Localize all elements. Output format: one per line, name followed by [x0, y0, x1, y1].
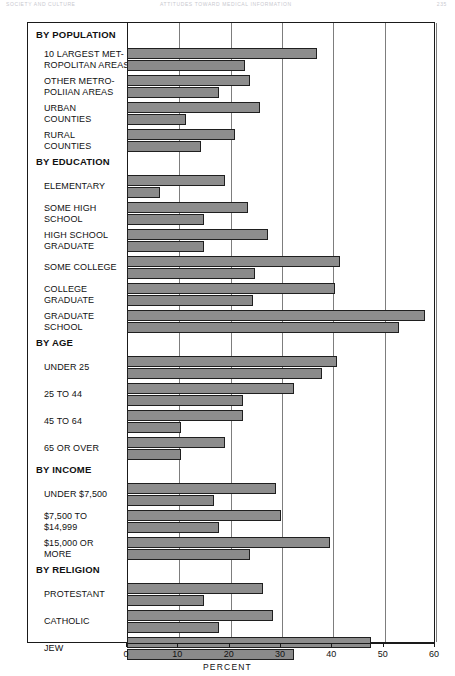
- bar: [127, 322, 399, 333]
- category-label: RURAL COUNTIES: [44, 130, 91, 151]
- chart-frame: BY POPULATION10 LARGEST MET- ROPOLITAN A…: [27, 22, 435, 643]
- bar: [127, 60, 245, 71]
- category-label: PROTESTANT: [44, 589, 105, 600]
- category-label: COLLEGE GRADUATE: [44, 284, 94, 305]
- x-tick-label-40: 40: [316, 649, 346, 659]
- bar: [127, 141, 201, 152]
- x-tick-label-50: 50: [368, 649, 398, 659]
- bar: [127, 356, 337, 367]
- x-tick-30: [280, 643, 281, 647]
- bar: [127, 310, 425, 321]
- bar: [127, 102, 260, 113]
- section-heading-by-population: BY POPULATION: [36, 29, 116, 40]
- bar: [127, 495, 214, 506]
- bar: [127, 48, 317, 59]
- category-label: 45 TO 64: [44, 416, 82, 427]
- category-label: 65 OR OVER: [44, 443, 99, 454]
- category-label: ELEMENTARY: [44, 181, 105, 192]
- category-label: JEW: [44, 643, 63, 654]
- bar: [127, 187, 160, 198]
- bar: [127, 595, 204, 606]
- bar: [127, 410, 243, 421]
- bar: [127, 87, 219, 98]
- x-tick-10: [177, 643, 178, 647]
- bar: [127, 114, 186, 125]
- bar: [127, 383, 294, 394]
- x-tick-50: [383, 643, 384, 647]
- section-heading-by-age: BY AGE: [36, 337, 73, 348]
- bar: [127, 268, 255, 279]
- x-tick-label-0: 0: [111, 649, 141, 659]
- bar: [127, 202, 248, 213]
- bar: [127, 229, 268, 240]
- running-head-center: ATTITUDES TOWARD MEDICAL INFORMATION: [160, 1, 292, 7]
- x-tick-40: [331, 643, 332, 647]
- bar: [127, 583, 263, 594]
- x-axis-title: PERCENT: [0, 662, 455, 672]
- section-heading-by-income: BY INCOME: [36, 464, 91, 475]
- bar: [127, 241, 204, 252]
- x-tick-label-10: 10: [162, 649, 192, 659]
- category-label: UNDER $7,500: [44, 489, 107, 500]
- category-label: HIGH SCHOOL GRADUATE: [44, 230, 108, 251]
- bar: [127, 510, 281, 521]
- category-label: URBAN COUNTIES: [44, 103, 91, 124]
- bar: [127, 175, 225, 186]
- bar: [127, 549, 250, 560]
- x-tick-label-30: 30: [265, 649, 295, 659]
- category-label: 10 LARGEST MET- ROPOLITAN AREAS: [44, 49, 129, 70]
- category-label: $7,500 TO $14,999: [44, 511, 87, 532]
- category-label: GRADUATE SCHOOL: [44, 311, 94, 332]
- bar: [127, 610, 273, 621]
- bar: [127, 522, 219, 533]
- bar: [127, 368, 322, 379]
- category-label: $15,000 OR MORE: [44, 538, 94, 559]
- bar: [127, 437, 225, 448]
- bar: [127, 449, 181, 460]
- bar: [127, 622, 219, 633]
- bar: [127, 129, 235, 140]
- category-label: UNDER 25: [44, 362, 89, 373]
- section-heading-by-education: BY EDUCATION: [36, 156, 110, 167]
- category-label: 25 TO 44: [44, 389, 82, 400]
- section-heading-by-religion: BY RELIGION: [36, 564, 100, 575]
- bar: [127, 483, 276, 494]
- bar: [127, 537, 330, 548]
- bar: [127, 75, 250, 86]
- bar: [127, 214, 204, 225]
- running-head: SOCIETY AND CULTURE ATTITUDES TOWARD MED…: [0, 0, 455, 9]
- category-label: OTHER METRO- POLIIAN AREAS: [44, 76, 115, 97]
- bar: [127, 422, 181, 433]
- gridline-60: [436, 23, 437, 642]
- bar: [127, 295, 253, 306]
- x-tick-0: [126, 643, 127, 647]
- x-tick-20: [229, 643, 230, 647]
- bar: [127, 256, 340, 267]
- running-head-right: 235: [437, 1, 447, 7]
- bar: [127, 395, 243, 406]
- x-tick-label-60: 60: [419, 649, 449, 659]
- x-tick-label-20: 20: [214, 649, 244, 659]
- running-head-left: SOCIETY AND CULTURE: [6, 1, 76, 7]
- bar: [127, 283, 335, 294]
- x-tick-60: [434, 643, 435, 647]
- category-label: SOME COLLEGE: [44, 262, 117, 273]
- category-label: SOME HIGH SCHOOL: [44, 203, 96, 224]
- category-label: CATHOLIC: [44, 616, 90, 627]
